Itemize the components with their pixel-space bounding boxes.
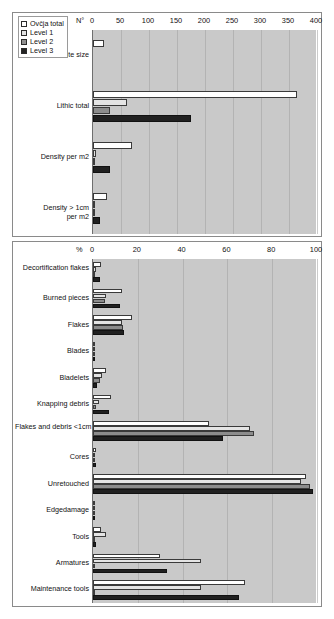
x-tick-label: 0 (90, 16, 94, 25)
legend-label-level3: Level 3 (30, 46, 53, 55)
legend-item-level2: Level 2 (21, 37, 64, 46)
legend-label-total: Ovčja total (30, 19, 64, 28)
bar (93, 506, 95, 511)
category-label: Armatures (15, 559, 89, 568)
bar (93, 201, 95, 209)
x-tick-label: 100 (310, 245, 322, 254)
bar (93, 542, 96, 547)
bar (93, 304, 120, 309)
legend-swatch-level2-icon (21, 39, 27, 45)
bar (93, 373, 102, 378)
bar (93, 368, 106, 373)
plot-area-percent (92, 259, 316, 603)
bar (93, 426, 250, 431)
bar (93, 272, 95, 277)
bar (93, 209, 95, 217)
x-axis-ticks-percent: 020406080100 (13, 245, 321, 257)
category-label: Unretouched (15, 480, 89, 489)
bar (93, 580, 245, 585)
bar (93, 262, 101, 267)
legend-swatch-level1-icon (21, 30, 27, 36)
bar (93, 99, 127, 107)
legend-item-total: Ovčja total (21, 19, 64, 28)
x-tick-label: 60 (222, 245, 230, 254)
figure-root: Ovčja total Level 1 Level 2 Level 3 N° 0… (0, 0, 334, 619)
bar (93, 294, 106, 299)
x-tick-label: 100 (142, 16, 154, 25)
bar (93, 142, 132, 150)
x-tick-label: 350 (282, 16, 294, 25)
gridline (317, 259, 318, 603)
bar (93, 320, 122, 325)
bar (93, 431, 254, 436)
bar (93, 458, 95, 463)
bar (93, 115, 191, 123)
bar (93, 463, 96, 468)
category-label: Density per m2 (15, 153, 89, 162)
gridline (177, 30, 178, 234)
chart-panel-percent: % 020406080100 Decortification flakesBur… (12, 241, 322, 607)
bar (93, 484, 310, 489)
x-tick-label: 300 (254, 16, 266, 25)
bar (93, 410, 109, 415)
legend-swatch-level3-icon (21, 48, 27, 54)
category-label: Density > 1cmper m2 (15, 204, 89, 221)
bar (93, 474, 306, 479)
bar (93, 91, 297, 99)
bar (93, 217, 100, 225)
bar (93, 595, 239, 600)
bar (93, 559, 201, 564)
bar (93, 40, 104, 48)
gridline (289, 30, 290, 234)
bar (93, 479, 301, 484)
x-tick-label: 80 (267, 245, 275, 254)
bar (93, 436, 223, 441)
bar (93, 357, 95, 362)
bar (93, 193, 107, 201)
bar (93, 289, 122, 294)
bar (93, 315, 132, 320)
bar (93, 347, 95, 352)
bar (93, 554, 160, 559)
x-tick-label: 40 (177, 245, 185, 254)
category-label: Knapping debris (15, 400, 89, 409)
bar (93, 150, 96, 158)
gridline (261, 30, 262, 234)
legend-swatch-total-icon (21, 21, 27, 27)
category-label: Blades (15, 347, 89, 356)
category-label: Flakes and debris <1cm (15, 423, 89, 432)
bar (93, 453, 95, 458)
bar (93, 267, 96, 272)
x-tick-label: 20 (133, 245, 141, 254)
bar (93, 299, 105, 304)
plot-area-counts (92, 30, 316, 234)
x-tick-label: 50 (116, 16, 124, 25)
chart-panel-counts: Ovčja total Level 1 Level 2 Level 3 N° 0… (12, 12, 322, 237)
bar (93, 421, 209, 426)
category-label: Burned pieces (15, 294, 89, 303)
x-tick-label: 200 (198, 16, 210, 25)
x-tick-label: 250 (226, 16, 238, 25)
gridline (121, 30, 122, 234)
bar (93, 166, 110, 174)
category-label: Bladelets (15, 374, 89, 383)
x-tick-label: 0 (90, 245, 94, 254)
bar (93, 383, 97, 388)
bar (93, 395, 111, 400)
bar (93, 158, 95, 166)
x-tick-label: 400 (310, 16, 322, 25)
bar (93, 330, 124, 335)
bar (93, 564, 95, 569)
legend-item-level3: Level 3 (21, 46, 64, 55)
bar (93, 107, 110, 115)
legend-label-level2: Level 2 (30, 37, 53, 46)
category-label: Maintenance tools (15, 585, 89, 594)
gridline (205, 30, 206, 234)
gridline (317, 30, 318, 234)
category-label: Cores (15, 453, 89, 462)
legend-item-level1: Level 1 (21, 28, 64, 37)
bar (93, 489, 313, 494)
bar (93, 448, 96, 453)
bar (93, 537, 95, 542)
bar (93, 277, 100, 282)
